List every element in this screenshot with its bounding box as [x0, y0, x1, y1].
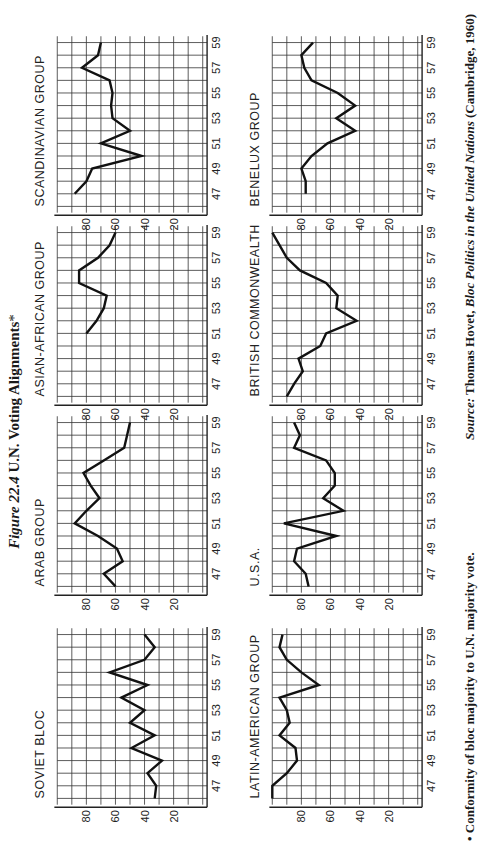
x-tick-label: 47	[425, 780, 437, 792]
x-tick-label: 47	[210, 780, 222, 792]
y-tick-label: 80	[80, 598, 92, 610]
chart-panel-british-commonwealth: 4749515355575920406080BRITISH COMMONWEAL…	[245, 223, 445, 423]
y-tick-label: 60	[324, 810, 336, 822]
y-tick-label: 40	[354, 598, 366, 610]
chart-title: ARAB GROUP	[33, 498, 47, 586]
chart-title: ASIAN-AFRICAN GROUP	[33, 241, 47, 396]
x-tick-label: 47	[210, 378, 222, 390]
x-tick-label: 59	[425, 36, 437, 48]
y-tick-label: 60	[324, 408, 336, 420]
y-tick-label: 80	[295, 218, 307, 230]
y-tick-label: 80	[295, 408, 307, 420]
x-tick-label: 49	[210, 352, 222, 364]
data-line	[272, 233, 356, 397]
x-tick-label: 55	[210, 679, 222, 691]
x-tick-label: 55	[210, 467, 222, 479]
x-tick-label: 49	[210, 754, 222, 766]
x-tick-label: 55	[210, 277, 222, 289]
x-tick-label: 47	[425, 378, 437, 390]
title-footnote-marker: *	[6, 314, 22, 322]
x-tick-label: 57	[210, 62, 222, 74]
x-tick-label: 53	[425, 704, 437, 716]
x-tick-label: 59	[210, 628, 222, 640]
chart-title: BRITISH COMMONWEALTH	[248, 224, 262, 396]
x-tick-label: 49	[425, 162, 437, 174]
y-tick-label: 60	[109, 218, 121, 230]
x-tick-label: 53	[210, 492, 222, 504]
x-tick-label: 53	[210, 302, 222, 314]
y-tick-label: 20	[383, 598, 395, 610]
y-tick-label: 80	[80, 408, 92, 420]
data-line	[284, 423, 344, 587]
chart-panel-u-s-a: 4749515355575920406080U.S.A.	[245, 413, 445, 613]
x-tick-label: 53	[425, 492, 437, 504]
x-tick-label: 51	[425, 729, 437, 741]
x-tick-label: 53	[425, 112, 437, 124]
x-tick-label: 57	[210, 442, 222, 454]
x-tick-label: 57	[210, 654, 222, 666]
x-tick-label: 49	[425, 542, 437, 554]
footnote: • Conformity of bloc majority to U.N. ma…	[462, 552, 478, 841]
y-tick-label: 20	[168, 810, 180, 822]
data-line	[75, 423, 130, 587]
x-tick-label: 51	[210, 137, 222, 149]
y-tick-label: 80	[295, 598, 307, 610]
y-tick-label: 20	[383, 408, 395, 420]
data-line	[272, 635, 319, 799]
x-tick-label: 59	[425, 628, 437, 640]
x-tick-label: 51	[210, 729, 222, 741]
x-tick-label: 55	[425, 87, 437, 99]
x-tick-label: 47	[425, 188, 437, 200]
x-tick-label: 49	[425, 754, 437, 766]
figure-title-text: U.N. Voting Alignments	[6, 322, 22, 473]
x-tick-label: 57	[425, 62, 437, 74]
y-tick-label: 20	[168, 218, 180, 230]
chart-panel-arab-group: 4749515355575920406080ARAB GROUP	[30, 413, 230, 613]
x-tick-label: 53	[210, 704, 222, 716]
x-tick-label: 51	[210, 517, 222, 529]
y-tick-label: 60	[109, 408, 121, 420]
y-tick-label: 80	[295, 810, 307, 822]
x-tick-label: 51	[425, 137, 437, 149]
y-tick-label: 40	[139, 598, 151, 610]
source-label: Source:	[462, 398, 477, 440]
x-tick-label: 55	[425, 467, 437, 479]
y-tick-label: 40	[139, 218, 151, 230]
chart-title: U.S.A.	[248, 547, 262, 586]
y-tick-label: 60	[109, 598, 121, 610]
y-tick-label: 60	[324, 218, 336, 230]
x-tick-label: 55	[425, 679, 437, 691]
x-tick-label: 51	[210, 327, 222, 339]
x-tick-label: 51	[425, 327, 437, 339]
chart-title: SCANDINAVIAN GROUP	[33, 55, 47, 206]
source-author: Thomas Hovet,	[462, 311, 477, 396]
y-tick-label: 40	[139, 408, 151, 420]
x-tick-label: 53	[425, 302, 437, 314]
y-tick-label: 20	[383, 218, 395, 230]
y-tick-label: 60	[324, 598, 336, 610]
figure-number: Figure 22.4	[6, 476, 22, 549]
y-tick-label: 20	[168, 598, 180, 610]
y-tick-label: 40	[354, 218, 366, 230]
chart-title: LATIN-AMERICAN GROUP	[248, 634, 262, 798]
chart-panel-latin-american-group: 4749515355575920406080LATIN-AMERICAN GRO…	[245, 625, 445, 825]
y-tick-label: 80	[80, 810, 92, 822]
x-tick-label: 51	[425, 517, 437, 529]
chart-title: BENELUX GROUP	[248, 92, 262, 206]
x-tick-label: 57	[425, 442, 437, 454]
x-tick-label: 49	[425, 352, 437, 364]
source-citation: Source: Thomas Hovet, Bloc Politics in t…	[462, 14, 478, 440]
x-tick-label: 49	[210, 162, 222, 174]
x-tick-label: 55	[210, 87, 222, 99]
chart-title: SOVIET BLOC	[33, 710, 47, 799]
y-tick-label: 40	[354, 810, 366, 822]
x-tick-label: 55	[425, 277, 437, 289]
y-tick-label: 20	[383, 810, 395, 822]
chart-panel-asian-african-group: 4749515355575920406080ASIAN-AFRICAN GROU…	[30, 223, 230, 423]
x-tick-label: 57	[425, 252, 437, 264]
x-tick-label: 49	[210, 542, 222, 554]
data-line	[110, 635, 162, 799]
chart-panel-benelux-group: 4749515355575920406080BENELUX GROUP	[245, 33, 445, 233]
chart-panel-scandinavian-group: 4749515355575920406080SCANDINAVIAN GROUP	[30, 33, 230, 233]
x-tick-label: 57	[210, 252, 222, 264]
